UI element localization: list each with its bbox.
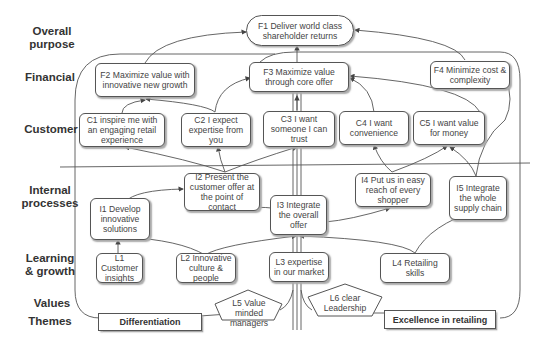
row-label-overall-purpose: Overall purpose [26, 25, 78, 51]
row-label-themes: Themes [22, 315, 78, 328]
node-C5[interactable]: C5 I want value for money [413, 111, 485, 145]
node-I2[interactable]: I2 Present the customer offer at the poi… [184, 173, 260, 211]
row-label-values: Values [24, 297, 80, 310]
node-L3[interactable]: L3 expertise in our market [269, 252, 329, 282]
node-F4[interactable]: F4 Minimize cost & complexity [430, 61, 510, 89]
node-I5[interactable]: I5 Integrate the whole supply chain [449, 176, 507, 220]
theme-excellence-in-retailing[interactable]: Excellence in retailing [384, 310, 496, 329]
row-label-customer: Customer [22, 123, 80, 136]
row-label-internal-processes: Internal processes [20, 184, 80, 210]
node-L5[interactable]: L5 Value minded managers [220, 298, 278, 328]
node-I3[interactable]: I3 Integrate the overall offer [270, 195, 327, 235]
node-I1[interactable]: I1 Develop innovative solutions [90, 198, 150, 240]
node-L6[interactable]: L6 clear Leadership [318, 293, 372, 313]
node-L4[interactable]: L4 Retailing skills [380, 253, 450, 283]
customer-internal-separator [60, 163, 530, 167]
node-F1[interactable]: F1 Deliver world class shareholder retur… [246, 15, 354, 46]
node-F3[interactable]: F3 Maximize value through core offer [249, 62, 349, 92]
node-C3[interactable]: C3 I want someone I can trust [263, 111, 335, 147]
node-C1[interactable]: C1 inspire me with an engaging retail ex… [79, 113, 165, 147]
node-L2[interactable]: L2 Innovative culture & people [176, 253, 236, 283]
theme-differentiation[interactable]: Differentiation [98, 313, 202, 331]
node-C2[interactable]: C2 I expect expertise from you [181, 113, 251, 147]
row-label-financial: Financial [22, 71, 78, 84]
node-C4[interactable]: C4 I want convenience [339, 111, 409, 145]
node-I4[interactable]: I4 Put us in easy reach of every shopper [355, 173, 431, 207]
node-F2[interactable]: F2 Maximize value with innovative new gr… [95, 63, 195, 97]
node-L1[interactable]: L1 Customer insights [96, 253, 143, 283]
row-label-learning-growth: Learning & growth [22, 252, 78, 278]
